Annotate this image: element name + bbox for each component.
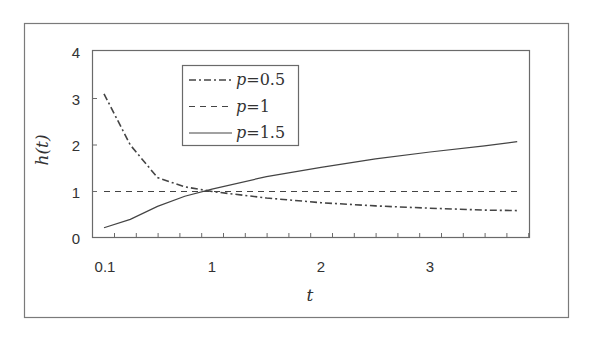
y-axis-ticks: 01234	[72, 44, 97, 247]
series-p=1.5	[104, 142, 517, 228]
y-tick-label: 3	[72, 91, 80, 108]
y-tick-label: 4	[72, 44, 80, 61]
legend: p=0.5p=1p=1.5	[183, 66, 299, 146]
legend-label: p=1.5	[236, 123, 285, 142]
legend-label: p=1	[236, 97, 270, 116]
x-tick-label: 1	[208, 258, 216, 275]
x-tick-label: 0.1	[95, 258, 116, 275]
y-tick-label: 1	[72, 184, 80, 201]
x-axis-label: t	[307, 285, 314, 305]
legend-label: p=0.5	[236, 70, 285, 89]
series-lines	[104, 94, 517, 228]
y-axis-label: h(t)	[32, 134, 52, 165]
y-tick-label: 0	[72, 230, 80, 247]
y-tick-label: 2	[72, 137, 80, 154]
x-axis-ticks: 0.1123	[95, 233, 529, 275]
chart: 01234 0.1123 t h(t) p=0.5p=1p=1.5	[0, 0, 593, 341]
x-tick-label: 3	[426, 258, 434, 275]
x-tick-label: 2	[317, 258, 325, 275]
series-p=0.5	[104, 94, 517, 211]
